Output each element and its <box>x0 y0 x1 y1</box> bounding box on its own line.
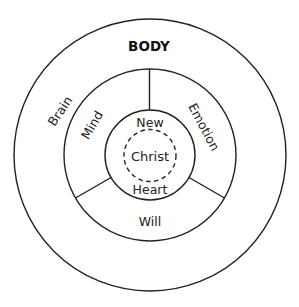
label-heart: Heart <box>133 182 168 197</box>
label-new: New <box>136 115 163 130</box>
divider-mind-will <box>76 178 112 199</box>
divider-emotion-will <box>189 178 225 199</box>
spiritual-anatomy-diagram: BODY Brain Mind Emotion Will New Christ … <box>0 0 299 307</box>
label-will: Will <box>139 214 162 229</box>
label-christ: Christ <box>131 149 169 164</box>
label-body: BODY <box>128 38 170 54</box>
label-emotion: Emotion <box>185 101 223 154</box>
label-mind: Mind <box>78 108 106 142</box>
label-brain: Brain <box>45 93 76 129</box>
